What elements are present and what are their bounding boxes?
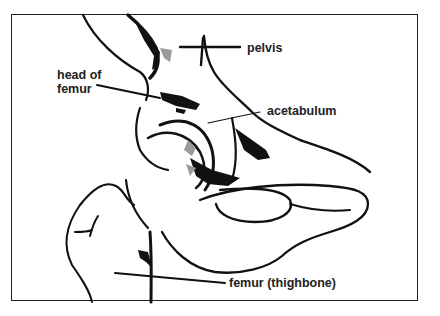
label-head-of-femur-line1: head of bbox=[57, 68, 101, 82]
label-femur: femur (thighbone) bbox=[229, 276, 336, 290]
femoral-neck bbox=[136, 108, 168, 170]
femur-leader bbox=[115, 273, 225, 283]
femur-shaft-left bbox=[66, 205, 92, 302]
hip-joint-illustration bbox=[0, 0, 440, 316]
ischium-outline bbox=[162, 185, 368, 273]
head-of-femur-leader bbox=[97, 85, 160, 98]
label-pelvis: pelvis bbox=[247, 41, 282, 55]
label-head-of-femur-line2: femur bbox=[57, 82, 92, 96]
obturator-foramen bbox=[216, 189, 291, 222]
acetabulum-leader bbox=[208, 112, 260, 123]
femoral-head-outline bbox=[148, 133, 204, 188]
label-acetabulum: acetabulum bbox=[267, 104, 336, 118]
greater-trochanter bbox=[80, 184, 134, 205]
